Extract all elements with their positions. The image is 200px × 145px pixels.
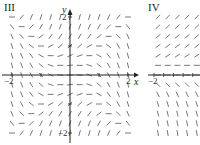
slope-field-iv-plot: −2	[140, 0, 200, 145]
slope-segment	[77, 93, 83, 95]
slope-segment	[20, 92, 22, 98]
slope-segment	[195, 34, 200, 38]
slope-segment	[97, 83, 101, 87]
slope-segment	[87, 45, 92, 48]
slope-segment	[78, 111, 81, 116]
slope-segment	[59, 34, 62, 39]
slope-segment	[186, 101, 188, 107]
slope-segment	[106, 44, 111, 48]
slope-segment	[187, 130, 188, 136]
slope-segment	[185, 44, 190, 48]
slope-segment	[157, 101, 159, 107]
slope-segment	[166, 15, 170, 19]
slope-segment	[48, 84, 54, 86]
slope-segment	[116, 15, 120, 20]
slope-segment	[38, 93, 43, 96]
slope-segment	[50, 14, 52, 20]
slope-segment	[117, 101, 120, 106]
slope-segment	[38, 54, 43, 57]
slope-segment	[40, 24, 43, 29]
slope-segment	[48, 64, 54, 66]
slope-segment	[177, 130, 178, 136]
slope-segment	[11, 62, 12, 68]
slope-segment	[59, 121, 61, 127]
slope-segment	[89, 14, 91, 20]
slope-segment	[20, 34, 24, 38]
slope-segment	[196, 111, 197, 117]
slope-segment	[106, 102, 111, 106]
slope-segment	[117, 43, 120, 48]
slope-segment	[49, 111, 53, 116]
slope-segment	[107, 130, 109, 135]
slope-segment	[127, 34, 129, 39]
slope-segment	[127, 101, 129, 107]
slope-field-iii-plot: −222−2yx	[0, 0, 140, 145]
slope-segment	[10, 24, 14, 29]
slope-segment	[88, 121, 90, 127]
slope-segment	[166, 92, 169, 97]
slope-segment	[30, 92, 34, 97]
slope-segment	[157, 111, 158, 117]
slope-segment	[116, 34, 120, 38]
slope-segment	[29, 44, 34, 48]
slope-field-panel-iii: III −222−2yx	[0, 0, 140, 145]
slope-segment	[57, 93, 63, 95]
slope-segment	[30, 63, 33, 68]
slope-segment	[195, 15, 199, 19]
slope-segment	[126, 24, 130, 29]
slope-segment	[167, 111, 168, 117]
slope-segment	[77, 44, 81, 48]
slope-segment	[186, 92, 189, 97]
slope-segment	[155, 54, 160, 57]
slope-segment	[98, 121, 101, 126]
slope-segment	[107, 82, 110, 87]
slope-segment	[58, 102, 62, 106]
slope-segment	[117, 92, 119, 98]
slope-segment	[96, 93, 101, 96]
slope-segment	[175, 25, 179, 29]
slope-segment	[156, 25, 160, 29]
slope-segment	[176, 101, 178, 107]
y-axis-arrow-icon	[68, 9, 73, 15]
slope-segment	[49, 121, 51, 127]
slope-segment	[97, 112, 102, 116]
slope-segment	[40, 121, 43, 126]
slope-segment	[60, 14, 61, 20]
slope-segment	[158, 130, 159, 136]
slope-segment	[116, 112, 120, 116]
slope-segment	[107, 25, 111, 29]
slope-segment	[40, 14, 42, 20]
slope-segment	[59, 24, 61, 30]
slope-segment	[165, 34, 170, 38]
slope-segment	[48, 45, 53, 48]
slope-segment	[87, 103, 92, 106]
slope-segment	[185, 54, 190, 57]
slope-segment	[20, 131, 24, 136]
slope-segment	[157, 120, 158, 126]
slope-segment	[127, 53, 129, 59]
slope-segment	[48, 103, 53, 106]
slope-segment	[167, 120, 168, 126]
slope-segment	[127, 91, 129, 97]
y-axis-label: y	[61, 4, 67, 15]
slope-segment	[177, 120, 178, 126]
slope-segment	[39, 83, 43, 87]
slope-segment	[117, 63, 119, 69]
slope-segment	[39, 112, 44, 116]
slope-segment	[98, 130, 100, 136]
slope-segment	[79, 130, 80, 136]
slope-segment	[21, 82, 23, 88]
slope-segment	[11, 43, 13, 49]
slope-segment	[166, 25, 170, 29]
slope-segment	[185, 15, 189, 19]
slope-segment	[98, 14, 100, 20]
x-tick-2: 2	[126, 76, 131, 86]
slope-segment	[59, 111, 62, 116]
slope-segment	[11, 101, 13, 107]
slope-segment	[79, 14, 80, 20]
slope-segment	[77, 102, 81, 106]
slope-segment	[97, 34, 102, 38]
slope-segment	[20, 43, 23, 48]
slope-segment	[11, 91, 13, 97]
slope-segment	[11, 53, 13, 59]
